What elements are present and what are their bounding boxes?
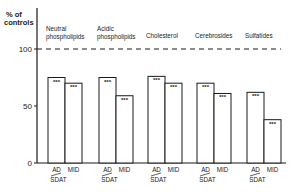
series-label: SDAT (50, 176, 66, 183)
category-label: Cholesterol (146, 32, 178, 39)
series-label: AD (201, 166, 210, 173)
series-label: AD (251, 166, 260, 173)
series-label: MID (68, 166, 80, 173)
bar-ad (99, 78, 116, 164)
significance-marker: *** (219, 94, 227, 100)
y-axis-label: controls (4, 18, 34, 27)
significance-marker: *** (104, 79, 112, 85)
category-label: phospholipids (46, 33, 85, 41)
bar-ad (48, 78, 65, 164)
category-label: Sulfatides (245, 32, 273, 39)
significance-marker: *** (252, 93, 260, 99)
bar-mid (165, 83, 182, 163)
series-label: SDAT (150, 176, 166, 183)
series-label: AD (152, 166, 161, 173)
series-label: SDAT (249, 176, 265, 183)
series-label: AD (52, 166, 61, 173)
significance-marker: *** (53, 79, 61, 85)
y-tick-label: 100 (19, 45, 33, 54)
bar-mid (214, 93, 231, 163)
bar-ad (197, 83, 214, 163)
bar-chart: % ofcontrols050100Neutralphospholipids**… (0, 0, 299, 192)
significance-marker: *** (170, 84, 178, 90)
series-label: MID (217, 166, 229, 173)
bar-mid (116, 96, 133, 163)
category-label: Cerebrosides (195, 32, 232, 39)
significance-marker: *** (153, 77, 161, 83)
series-label: MID (119, 166, 131, 173)
category-label: Acidic (97, 25, 114, 32)
bar-ad (247, 92, 264, 163)
series-label: MID (267, 166, 279, 173)
bar-ad (148, 76, 165, 163)
series-label: SDAT (199, 176, 215, 183)
y-tick-label: 0 (28, 159, 33, 168)
significance-marker: *** (70, 84, 78, 90)
significance-marker: *** (121, 97, 129, 103)
category-label: Neutral (46, 25, 66, 32)
significance-marker: *** (269, 121, 277, 127)
y-tick-label: 50 (23, 102, 32, 111)
series-label: SDAT (101, 176, 117, 183)
significance-marker: *** (202, 84, 210, 90)
series-label: AD (103, 166, 112, 173)
bar-mid (65, 83, 82, 163)
series-label: MID (168, 166, 180, 173)
category-label: phospholipids (97, 33, 136, 41)
